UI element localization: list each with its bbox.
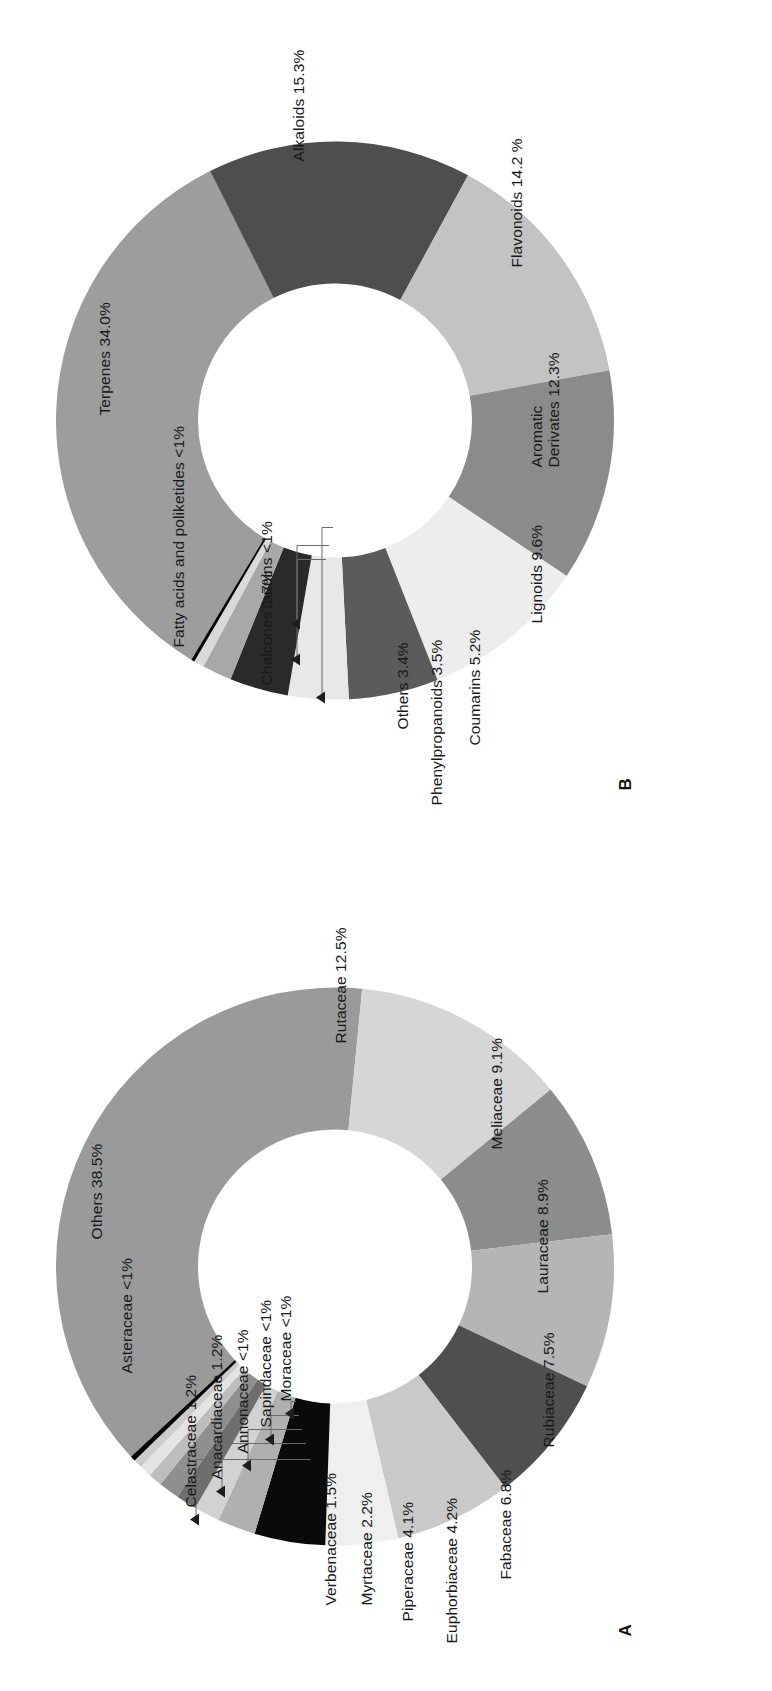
- panel-a-label-fabaceae: Fabaceae 6.8%: [497, 1469, 514, 1579]
- panel-b-label-phenylpropanoids: Phenylpropanoids 3.5%: [428, 639, 445, 805]
- panel-b-label-flavonoids: Flavonoids 14.2 %: [508, 138, 525, 267]
- panel-b-label-lignoids: Lignoids 9.6%: [528, 524, 545, 623]
- panel-a-label-euphorbiaceae: Euphorbiaceae 4.2%: [443, 1497, 460, 1643]
- panel-b-label-aromatic-line1: Aromatic: [528, 405, 545, 467]
- panel-b-label-tannins: Tannins <1%: [258, 521, 275, 611]
- panel-a-label-piperaceae: Piperaceae 4.1%: [399, 1501, 416, 1621]
- panel-a-label-others: Others 38.5%: [88, 1143, 105, 1239]
- panel-a-label-asteraceae: Asteraceae <1%: [118, 1257, 135, 1373]
- panel-a-label-lauraceae: Lauraceae 8.9%: [534, 1179, 551, 1293]
- panel-b-letter: B: [616, 778, 636, 790]
- panel-a-label-celastraceae: Celastraceae 1.2%: [182, 1374, 199, 1507]
- panel-a-label-moraceae: Moraceae <1%: [277, 1295, 294, 1401]
- panel-b-label-fatty-acids: Fatty acids and poliketides <1%: [170, 425, 187, 647]
- panel-a-label-verbenaceae: Verbenaceae 1.5%: [322, 1472, 339, 1605]
- panel-a-label-rutaceae: Rutaceae 12.5%: [332, 927, 349, 1043]
- panel-b: B Terpenes 34.0%Alkaloids 15.3%Flavonoid…: [0, 0, 772, 845]
- panel-b-label-others: Others 3.4%: [394, 642, 411, 729]
- panel-a-label-annonaceae: Annonaceae <1%: [234, 1329, 251, 1453]
- panel-b-label-aromatic-line2: Derivates 12.3%: [545, 352, 562, 467]
- panel-a-label-meliaceae: Meliaceae 9.1%: [488, 1037, 505, 1149]
- panel-a-slices: Others 38.5%Rutaceae 12.5%Meliaceae 9.1%…: [56, 987, 614, 1545]
- panel-a-letter: A: [616, 1624, 636, 1636]
- panel-b-label-alkaloids: Alkaloids 15.3%: [290, 49, 307, 161]
- panel-b-label-aromatic-derivates: Aromatic Derivates 12.3%: [528, 307, 563, 467]
- panel-b-label-coumarins: Coumarins 5.2%: [466, 629, 483, 745]
- panel-a-label-myrtaceae: Myrtaceae 2.2%: [358, 1492, 375, 1605]
- panel-a-label-anacardiaceae: Anacardiaceae 1.2%: [208, 1334, 225, 1479]
- figure-stage: A Others 38.5%Rutaceae 12.5%Meliaceae 9.…: [0, 0, 772, 1691]
- panel-a-label-rubiaceae: Rubiaceae 7.5%: [540, 1332, 557, 1447]
- panel-b-label-terpenes: Terpenes 34.0%: [96, 302, 113, 415]
- panel-a: A Others 38.5%Rutaceae 12.5%Meliaceae 9.…: [0, 846, 772, 1691]
- panel-a-label-sapindaceae: Sapindaceae <1%: [257, 1299, 274, 1427]
